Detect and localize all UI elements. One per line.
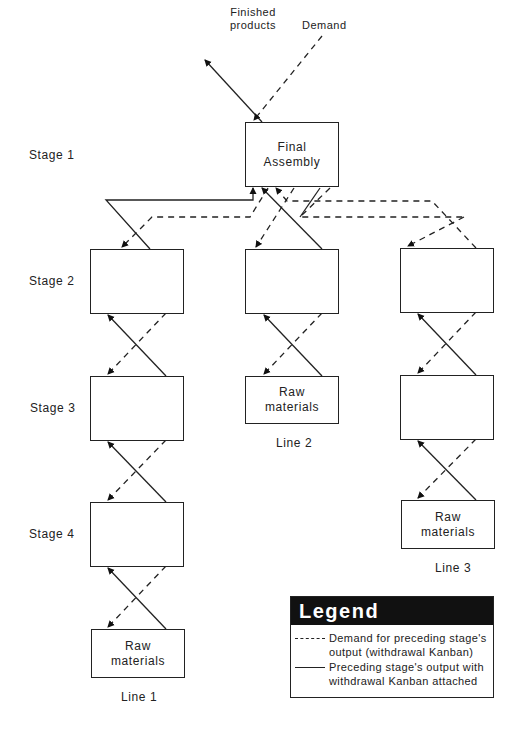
line1-demand-from-final xyxy=(122,188,268,247)
finished-products-label: Finished products xyxy=(218,6,288,32)
stage-3-label: Stage 3 xyxy=(30,401,76,415)
line1-stage3-box xyxy=(90,376,184,441)
line1-stage4-box xyxy=(90,502,184,567)
final-assembly-label-line1: Final xyxy=(264,140,321,155)
line3-output-solid xyxy=(300,188,320,217)
raw-materials-label-line2: materials xyxy=(421,525,475,540)
legend-item-text: Preceding stage's output with withdrawal… xyxy=(329,660,484,688)
line2-raw-materials-box: Raw materials xyxy=(245,376,339,424)
line-3-label: Line 3 xyxy=(435,561,471,575)
raw-materials-label-line2: materials xyxy=(111,654,165,669)
line1-raw-materials-box: Raw materials xyxy=(91,629,185,678)
solid-line-swatch-icon xyxy=(295,667,325,668)
legend-item-text-line1: Demand for preceding stage's xyxy=(329,631,487,645)
legend-title: Legend xyxy=(291,597,493,625)
line3-demand-branch xyxy=(408,217,464,246)
line3-output-to-final xyxy=(300,188,464,217)
dashed-line-swatch-icon xyxy=(295,638,325,639)
line2-stage2-box xyxy=(245,249,339,314)
line2-demand-from-final xyxy=(256,188,294,247)
line1-stage2-box xyxy=(90,249,184,314)
line-1-label: Line 1 xyxy=(121,690,157,704)
demand-label: Demand xyxy=(302,19,347,32)
stage-4-label: Stage 4 xyxy=(29,527,75,541)
raw-materials-label-line2: materials xyxy=(265,400,319,415)
line1-output-to-final xyxy=(106,188,253,249)
stage-2-label: Stage 2 xyxy=(29,274,75,288)
raw-materials-label-line1: Raw xyxy=(111,639,165,654)
legend: Legend Demand for preceding stage's outp… xyxy=(290,596,494,698)
finished-products-label-line1: Finished xyxy=(218,6,288,19)
final-assembly-box: Final Assembly xyxy=(245,122,339,187)
line3-demand-from-final xyxy=(276,188,476,248)
stage-1-label: Stage 1 xyxy=(29,148,75,162)
line3-raw-materials-box: Raw materials xyxy=(401,500,495,549)
legend-item-text-line1: Preceding stage's output with xyxy=(329,660,484,674)
legend-item-text: Demand for preceding stage's output (wit… xyxy=(329,631,487,659)
final-assembly-label-line2: Assembly xyxy=(264,155,321,170)
legend-item-solid: Preceding stage's output with withdrawal… xyxy=(291,658,493,691)
legend-item-text-line2: output (withdrawal Kanban) xyxy=(329,645,487,659)
line3-stage3-box xyxy=(400,375,494,440)
line3-stage2-box xyxy=(400,248,494,313)
line-2-label: Line 2 xyxy=(276,436,312,450)
legend-item-text-line2: withdrawal Kanban attached xyxy=(329,674,484,688)
finished-products-label-line2: products xyxy=(218,19,288,32)
raw-materials-label-line1: Raw xyxy=(265,385,319,400)
demand-arrow xyxy=(254,36,322,120)
finished-products-arrow xyxy=(205,60,262,122)
raw-materials-label-line1: Raw xyxy=(421,510,475,525)
